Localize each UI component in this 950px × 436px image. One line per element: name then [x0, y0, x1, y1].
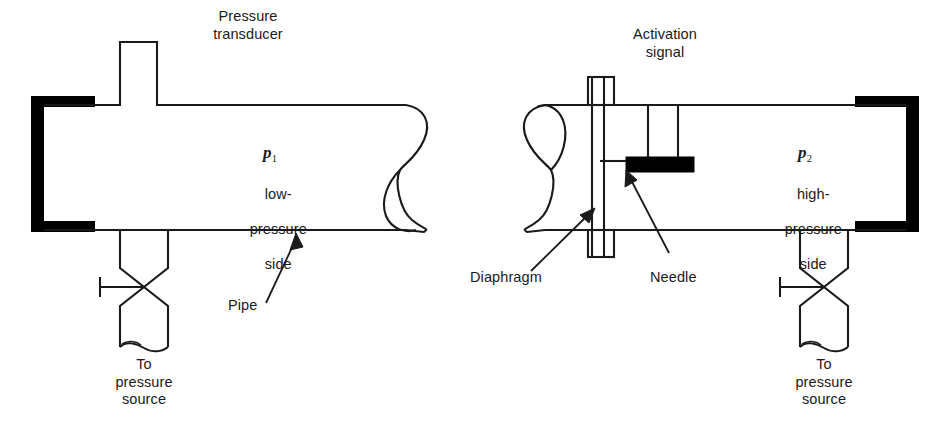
- high-pressure-side-label: p2 high- pressure side: [740, 108, 870, 291]
- low-pressure-line1: low-: [265, 186, 292, 202]
- diaphragm-label: Diaphragm: [470, 269, 580, 287]
- left-valve-body-left: [120, 230, 144, 347]
- left-pipe-top-wall: [44, 42, 406, 105]
- activation-signal-label: Activationsignal: [598, 26, 732, 61]
- diaphragm-leader-line: [531, 213, 590, 271]
- right-tube-break-curl: [800, 343, 848, 351]
- high-pressure-line1: high-: [797, 186, 830, 202]
- low-pressure-line3: side: [265, 256, 292, 272]
- right-pipe-break-symbol: [524, 105, 553, 232]
- p2-symbol: p2: [740, 143, 870, 168]
- left-end-cap: [31, 96, 95, 232]
- pipe-label: Pipe: [228, 297, 298, 315]
- left-to-pressure-source-label: Topressuresource: [89, 356, 199, 409]
- left-tube-break-curl: [120, 343, 168, 351]
- left-valve-body-right: [144, 230, 168, 347]
- needle-leader-arrowhead: [625, 170, 637, 187]
- needle-leader-line: [629, 176, 669, 253]
- needle-label: Needle: [650, 269, 730, 287]
- p1-symbol: p1: [205, 143, 335, 168]
- low-pressure-side-label: p1 low- pressure side: [205, 108, 335, 291]
- low-pressure-line2: pressure: [250, 221, 307, 237]
- pressure-transducer-schematic: Pressuretransducer p1 low- pressure side…: [0, 0, 950, 436]
- pressure-transducer-label: Pressuretransducer: [173, 8, 323, 43]
- high-pressure-line3: side: [800, 256, 827, 272]
- high-pressure-line2: pressure: [785, 221, 842, 237]
- solenoid-block: [626, 157, 694, 172]
- left-pipe-break-symbol: [398, 105, 427, 232]
- right-to-pressure-source-label: Topressuresource: [769, 356, 879, 409]
